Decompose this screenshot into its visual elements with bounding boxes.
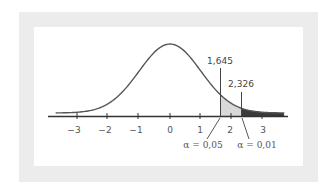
alpha-label-001: α = 0,01	[237, 140, 276, 150]
critical-value-label-2326: 2,326	[228, 79, 254, 89]
tick-label: 0	[167, 125, 173, 135]
tick-label: 3	[260, 125, 266, 135]
leader-line-005	[207, 118, 220, 139]
critical-value-label-1645: 1,645	[207, 56, 233, 66]
tick-label: −3	[67, 125, 80, 135]
tick-label: 1	[197, 125, 203, 135]
tick-label: −1	[129, 125, 142, 135]
alpha-label-005: α = 0,05	[183, 140, 223, 150]
tick-label: 2	[227, 125, 233, 135]
leader-line-001	[242, 118, 249, 139]
tick-label: −2	[98, 125, 111, 135]
normal-distribution-chart: −3 −2 −1 0 1 2 3 1,645 2,326 α = 0,05 α …	[0, 0, 336, 188]
